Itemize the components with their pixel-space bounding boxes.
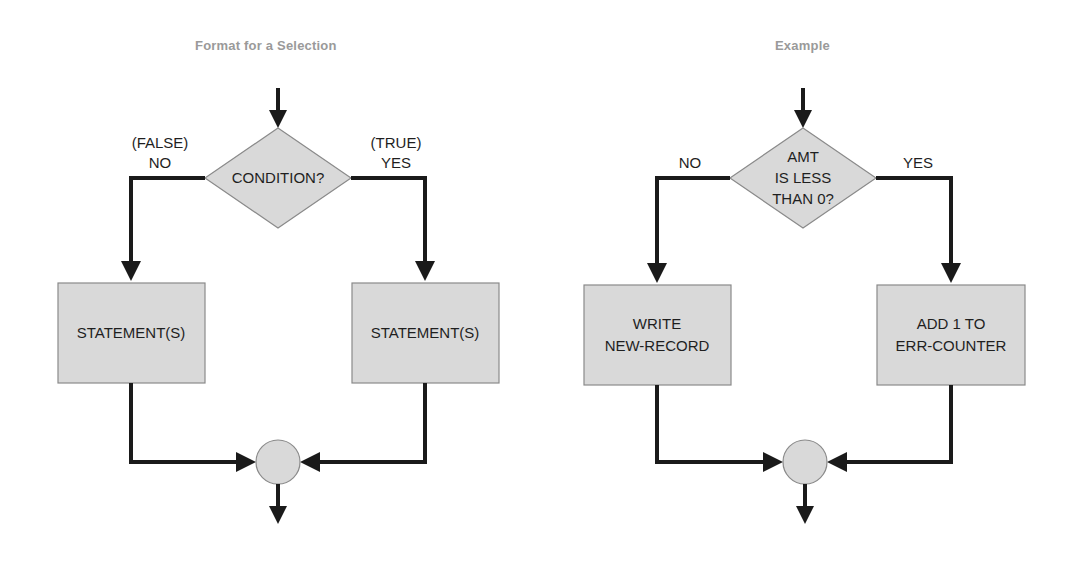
format-branch-left-line2: NO [149, 154, 172, 171]
example-process-right-box[interactable] [877, 285, 1025, 385]
format-connector-no [121, 178, 205, 281]
example-process-left-box[interactable] [584, 285, 731, 385]
format-merge-circle[interactable] [256, 440, 300, 484]
example-process-right-line1: ADD 1 TO [917, 315, 986, 332]
flowchart-svg: CONDITION? (FALSE) NO (TRUE) YES STATEME… [0, 0, 1075, 563]
format-branch-right-line2: YES [381, 154, 411, 171]
example-process-left-line1: WRITE [633, 315, 681, 332]
example-branch-right-label: YES [903, 154, 933, 171]
format-entry-arrow [269, 88, 287, 128]
format-branch-left-line1: (FALSE) [132, 134, 189, 151]
example-process-left-line2: NEW-RECORD [605, 337, 710, 354]
format-merge-connector-right [300, 383, 425, 472]
format-merge-connector-left [131, 383, 256, 472]
format-process-right-label: STATEMENT(S) [371, 324, 480, 341]
example-decision-line2: IS LESS [775, 169, 832, 186]
example-merge-circle[interactable] [783, 440, 827, 484]
example-branch-left-label: NO [679, 154, 702, 171]
example-merge-connector-right [827, 385, 951, 472]
format-process-left-label: STATEMENT(S) [77, 324, 186, 341]
example-process-right-line2: ERR-COUNTER [896, 337, 1007, 354]
example-decision-line1: AMT [787, 148, 819, 165]
example-entry-arrow [794, 88, 812, 128]
format-decision-label: CONDITION? [232, 169, 325, 186]
format-branch-right-line1: (TRUE) [371, 134, 422, 151]
example-decision-line3: THAN 0? [772, 190, 834, 207]
format-connector-yes [351, 178, 435, 281]
format-exit-arrow [269, 484, 287, 524]
example-connector-no [647, 178, 730, 283]
example-exit-arrow [796, 484, 814, 524]
flowchart-canvas: Format for a Selection Example CONDITION… [0, 0, 1075, 563]
example-merge-connector-left [657, 385, 783, 472]
example-connector-yes [876, 178, 961, 283]
